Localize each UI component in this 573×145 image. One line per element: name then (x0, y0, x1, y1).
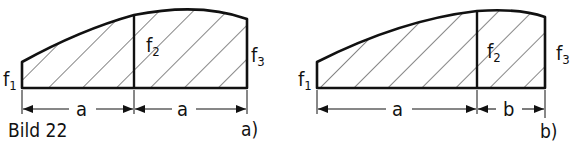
label-f3-b: f3 (556, 41, 570, 67)
dimension-label-b2: b (503, 97, 514, 121)
dimension-label-b1: a (392, 97, 403, 121)
figure-caption: Bild 22 (8, 119, 67, 141)
panel-tag-a: a) (241, 118, 258, 140)
dimension-label-a1: a (76, 97, 87, 121)
hatched-area-b (317, 10, 545, 88)
figure-canvas: f1 f2 f3 a a a) f1 f2 f3 a b b) Bild 22 (0, 0, 573, 145)
label-f1-a: f1 (3, 67, 17, 93)
label-f1-b: f1 (298, 67, 312, 93)
panel-tag-b: b) (540, 120, 558, 142)
dimension-label-a2: a (177, 97, 188, 121)
panel-b: f1 f2 f3 a b b) (298, 10, 570, 142)
label-f3-a: f3 (251, 43, 265, 69)
